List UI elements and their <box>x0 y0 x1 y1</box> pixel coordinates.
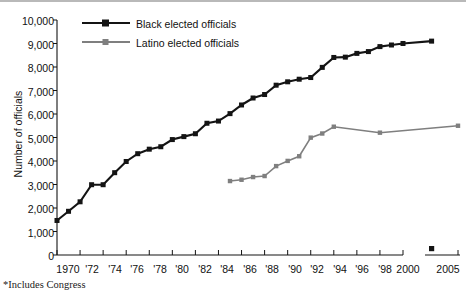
data-point <box>147 147 152 152</box>
data-point <box>101 182 106 187</box>
data-point <box>228 179 232 183</box>
data-point <box>343 55 348 60</box>
data-point <box>309 135 313 139</box>
data-point <box>377 44 382 49</box>
chart-figure: Number of officials 10,000 9,000 8,000 7… <box>0 0 466 297</box>
data-point <box>193 131 198 136</box>
series-latino-officials <box>228 124 460 184</box>
data-point <box>354 51 359 56</box>
data-point <box>216 119 221 124</box>
x-axis-ticks <box>57 250 458 255</box>
chart-plot-area <box>0 0 466 297</box>
data-point <box>378 130 382 134</box>
data-point <box>112 170 117 175</box>
data-point <box>228 111 233 116</box>
data-point <box>89 182 94 187</box>
data-point <box>262 92 267 97</box>
data-point <box>274 83 279 88</box>
series-black-officials <box>55 39 435 223</box>
data-point <box>297 77 302 82</box>
data-point <box>251 175 255 179</box>
black-series-end-marker <box>429 246 434 251</box>
data-point <box>274 164 278 168</box>
annotation-layer <box>429 246 434 251</box>
data-point <box>181 134 186 139</box>
data-point <box>331 55 336 60</box>
data-series-layer <box>55 39 461 223</box>
data-point <box>124 159 129 164</box>
data-point <box>170 137 175 142</box>
data-point <box>78 199 83 204</box>
data-point <box>320 131 324 135</box>
data-point <box>401 41 406 46</box>
data-point <box>366 49 371 54</box>
data-point <box>239 102 244 107</box>
data-point <box>456 124 460 128</box>
data-point <box>429 39 434 44</box>
data-point <box>158 144 163 149</box>
data-point <box>55 218 60 223</box>
data-point <box>251 96 256 101</box>
legend-swatches <box>82 20 130 46</box>
data-point <box>297 154 301 158</box>
data-point <box>135 151 140 156</box>
data-point <box>308 75 313 80</box>
data-point <box>285 79 290 84</box>
data-point <box>239 178 243 182</box>
data-point <box>262 174 266 178</box>
data-point <box>66 209 71 214</box>
data-point <box>389 43 394 48</box>
data-point <box>285 159 289 163</box>
data-point <box>204 121 209 126</box>
data-point <box>332 125 336 129</box>
data-point <box>320 65 325 70</box>
axis-lines <box>57 20 460 255</box>
